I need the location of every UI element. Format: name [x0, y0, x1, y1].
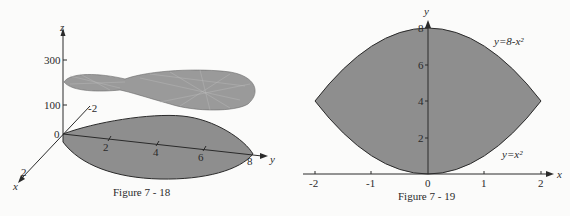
x-tick-neg2-right: -2	[309, 177, 318, 189]
x-axis-label: x	[12, 180, 18, 192]
figure-caption-left: Figure 7 - 18	[113, 186, 171, 198]
y-arrow-icon-right	[425, 20, 431, 28]
y-tick-8: 8	[247, 155, 253, 167]
z-tick-100: 100	[44, 99, 61, 111]
figures-canvas: z 300 100 0 y 2 4 6 8 x -2 2 Figure 7 - …	[0, 0, 570, 216]
x-tick-2: 2	[21, 166, 27, 178]
y-axis-label-right: y	[423, 5, 429, 17]
x-tick-1-right: 1	[481, 177, 487, 189]
x-tick-0-right: 0	[425, 177, 431, 189]
figure-7-18: z 300 100 0 y 2 4 6 8 x -2 2 Figure 7 - …	[12, 21, 275, 198]
y-tick-2-right: 2	[418, 132, 424, 144]
y-tick-4-right: 4	[418, 95, 424, 107]
figure-7-19: x -2 -1 0 1 2 y 2 4 6 8 y=8-x² y=x² Figu…	[303, 5, 562, 202]
x-axis-label-right: x	[556, 168, 562, 180]
lower-curve-label: y=x²	[501, 148, 523, 160]
x-tick-neg2: -2	[88, 102, 97, 114]
y-tick-6-right: 6	[418, 59, 424, 71]
y-tick-6: 6	[198, 151, 204, 163]
y-tick-2: 2	[103, 141, 109, 153]
x-tick-neg1-right: -1	[366, 177, 375, 189]
x-arrow-icon-right	[546, 171, 554, 177]
z-axis-label: z	[59, 21, 65, 33]
y-tick-8-right: 8	[418, 22, 424, 34]
upper-curve-label: y=8-x²	[493, 35, 524, 47]
figure-caption-right: Figure 7 - 19	[398, 190, 456, 202]
y-tick-4: 4	[153, 146, 159, 158]
y-axis-label: y	[269, 153, 275, 165]
y-arrow-icon	[260, 153, 268, 159]
x-tick-2-right: 2	[538, 177, 544, 189]
z-tick-300: 300	[44, 54, 61, 66]
